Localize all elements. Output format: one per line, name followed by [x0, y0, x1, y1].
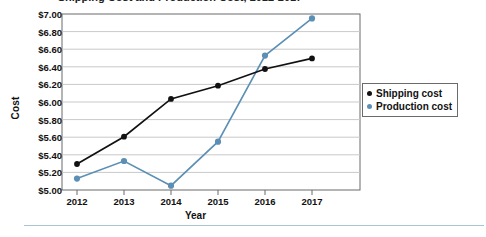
x-tick-label: 2016 — [242, 196, 288, 207]
y-axis-title: Cost — [10, 78, 21, 138]
bottom-divider — [24, 225, 484, 226]
legend-item-shipping-cost: Shipping cost — [367, 87, 452, 100]
legend-marker-icon — [367, 104, 372, 109]
line-chart-figure: $5.00 $5.20 $5.40 $5.60 $5.80 $6.00 $6.2… — [0, 0, 486, 237]
legend-label: Shipping cost — [376, 87, 442, 100]
chart-legend: Shipping cost Production cost — [362, 83, 458, 117]
x-tick-label: 2017 — [289, 196, 335, 207]
legend-marker-icon — [367, 91, 372, 96]
x-axis-title: Year — [63, 210, 328, 221]
legend-item-production-cost: Production cost — [367, 100, 452, 113]
x-tick-label: 2013 — [101, 196, 147, 207]
x-tick-label: 2014 — [148, 196, 194, 207]
x-axis-tick-labels: 2012 2013 2014 2015 2016 2017 — [0, 0, 486, 237]
x-tick-label: 2015 — [195, 196, 241, 207]
x-tick-label: 2012 — [54, 196, 100, 207]
legend-label: Production cost — [376, 100, 452, 113]
